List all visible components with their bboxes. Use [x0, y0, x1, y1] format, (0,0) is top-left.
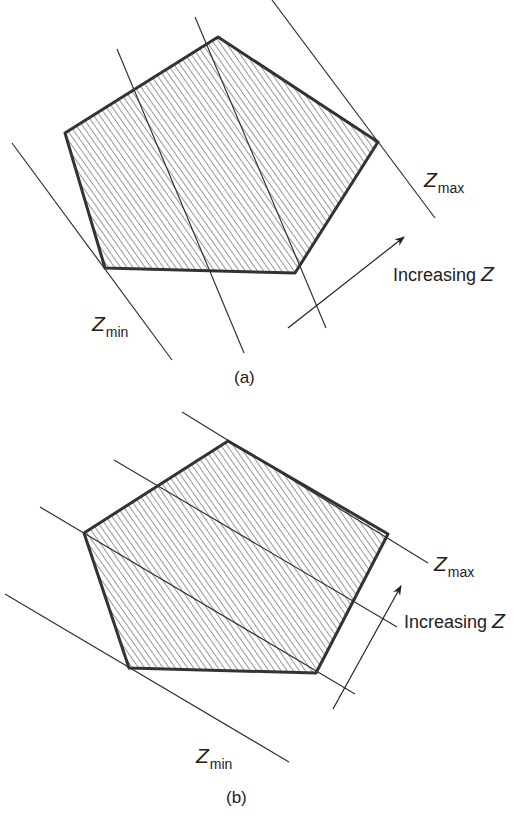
zmin-subscript-a: min [106, 324, 129, 340]
zmin-symbol-a: Z [92, 312, 105, 335]
increasing-text-a: Increasing [393, 265, 481, 285]
caption-a: (a) [234, 368, 255, 388]
increasing-z-symbol-a: Z [481, 262, 494, 285]
increasing-z-label-a: Increasing Z [393, 262, 494, 286]
panel-b [5, 412, 428, 762]
increasing-z-label-b: Increasing Z [404, 609, 505, 633]
zmin-label-a: Zmin [92, 312, 128, 336]
feasible-region-polygon-a [65, 37, 378, 273]
zmin-label-b: Zmin [196, 744, 232, 768]
zmax-label-b: Zmax [434, 552, 474, 576]
increasing-z-symbol-b: Z [492, 609, 505, 632]
zmin-symbol-b: Z [196, 744, 209, 767]
zmax-symbol-a: Z [424, 168, 437, 191]
zmax-symbol-b: Z [434, 552, 447, 575]
zmax-subscript-a: max [438, 180, 464, 196]
zmax-subscript-b: max [448, 564, 474, 580]
feasible-region-polygon-b [84, 441, 388, 673]
zmin-subscript-b: min [210, 756, 233, 772]
panel-a [12, 0, 435, 360]
diagram-canvas [0, 0, 516, 833]
zmax-label-a: Zmax [424, 168, 464, 192]
increasing-text-b: Increasing [404, 612, 492, 632]
caption-b: (b) [226, 788, 247, 808]
